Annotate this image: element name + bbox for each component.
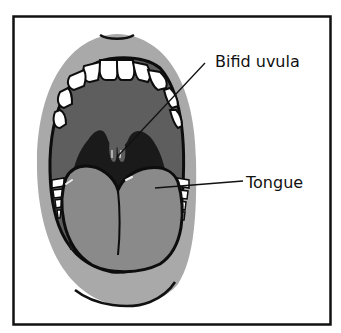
label-bifid-uvula: Bifid uvula xyxy=(215,52,300,71)
mouth-diagram: Bifid uvula Tongue xyxy=(0,0,341,333)
label-tongue: Tongue xyxy=(245,173,303,192)
diagram-stage: Bifid uvula Tongue xyxy=(0,0,341,333)
tongue xyxy=(62,166,182,272)
